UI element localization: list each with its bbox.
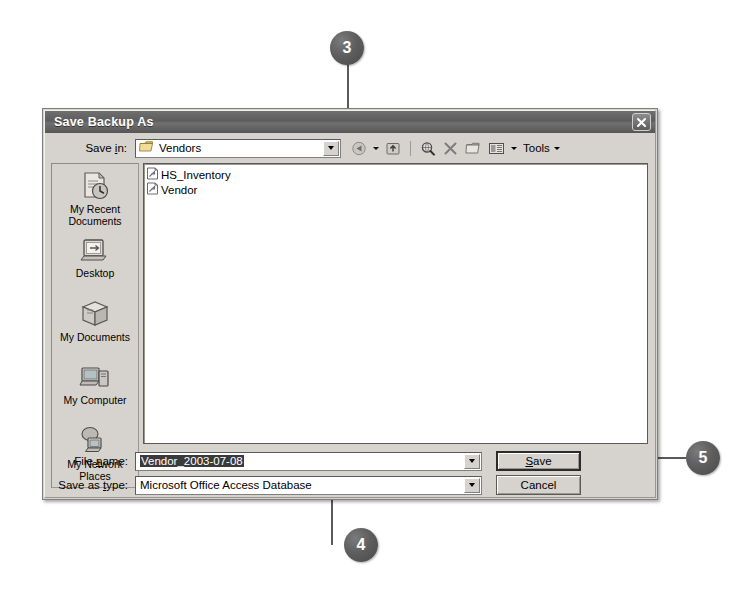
chevron-down-icon xyxy=(328,146,334,150)
folder-icon xyxy=(139,139,154,157)
dialog-toolbar: Tools xyxy=(348,139,562,158)
place-label: My Computer xyxy=(63,395,126,407)
chevron-down-icon xyxy=(511,147,517,150)
my-documents-icon xyxy=(79,296,111,332)
place-my-documents[interactable]: My Documents xyxy=(53,296,137,357)
views-button[interactable] xyxy=(486,139,507,158)
delete-button[interactable] xyxy=(440,139,461,158)
views-dropdown[interactable] xyxy=(509,139,519,158)
my-computer-icon xyxy=(79,359,111,395)
place-label: Desktop xyxy=(76,268,115,280)
file-name-label: HS_Inventory xyxy=(161,169,231,181)
close-icon[interactable] xyxy=(632,113,651,131)
file-list-item[interactable]: Vendor xyxy=(146,182,647,197)
save-as-type-row: Save as type: Microsoft Office Access Da… xyxy=(43,474,657,496)
tools-dropdown[interactable] xyxy=(552,139,562,158)
place-label: My Documents xyxy=(60,332,130,344)
cancel-button[interactable]: Cancel xyxy=(496,475,581,495)
place-my-computer[interactable]: My Computer xyxy=(53,359,137,420)
file-list-item[interactable]: HS_Inventory xyxy=(146,167,647,182)
screenshot-stage: Save Backup As Save in: Vendors xyxy=(0,0,748,603)
save-backup-as-dialog: Save Backup As Save in: Vendors xyxy=(42,108,658,500)
up-one-level-button[interactable] xyxy=(383,139,404,158)
save-in-label: Save in: xyxy=(43,142,135,154)
file-name-dropdown[interactable] xyxy=(464,454,480,469)
place-label: My Recent Documents xyxy=(68,204,121,227)
save-in-value: Vendors xyxy=(159,142,201,154)
file-name-label-static: File name: xyxy=(43,455,135,467)
callout-4: 4 xyxy=(344,528,378,562)
place-desktop[interactable]: Desktop xyxy=(53,232,137,293)
close-glyph xyxy=(636,117,647,128)
desktop-icon xyxy=(79,232,111,268)
save-as-type-field[interactable]: Microsoft Office Access Database xyxy=(135,476,482,495)
callout-5: 5 xyxy=(686,441,720,475)
file-list[interactable]: HS_Inventory Vendor xyxy=(143,163,648,444)
save-in-combobox[interactable]: Vendors xyxy=(135,139,341,158)
file-name-label: Vendor xyxy=(161,184,197,196)
recent-documents-icon xyxy=(78,168,112,204)
save-as-type-label-static: Save as type: xyxy=(43,479,135,491)
place-my-recent-documents[interactable]: My Recent Documents xyxy=(53,168,137,229)
save-button[interactable]: Save xyxy=(496,451,581,471)
chevron-down-icon xyxy=(469,483,475,487)
save-as-type-value: Microsoft Office Access Database xyxy=(140,479,312,491)
dialog-title: Save Backup As xyxy=(54,115,154,129)
file-name-row: File name: Vendor_2003-07-08 Save xyxy=(43,450,657,472)
back-button[interactable] xyxy=(348,139,369,158)
dialog-titlebar: Save Backup As xyxy=(45,111,655,133)
callout-3: 3 xyxy=(330,31,364,65)
save-as-type-dropdown[interactable] xyxy=(464,478,480,493)
chevron-down-icon xyxy=(554,147,560,150)
toolbar-separator xyxy=(410,141,411,156)
save-in-row: Save in: Vendors xyxy=(43,135,657,161)
file-name-value: Vendor_2003-07-08 xyxy=(140,455,244,467)
chevron-down-icon xyxy=(373,147,379,150)
file-name-field[interactable]: Vendor_2003-07-08 xyxy=(135,452,482,471)
new-folder-button[interactable] xyxy=(463,139,484,158)
search-the-web-button[interactable] xyxy=(417,139,438,158)
chevron-down-icon xyxy=(469,459,475,463)
back-dropdown[interactable] xyxy=(371,139,381,158)
save-in-dropdown[interactable] xyxy=(323,141,339,156)
tools-menu-label[interactable]: Tools xyxy=(523,142,550,154)
places-bar: My Recent Documents Desktop xyxy=(51,163,139,488)
access-database-icon xyxy=(146,181,159,199)
